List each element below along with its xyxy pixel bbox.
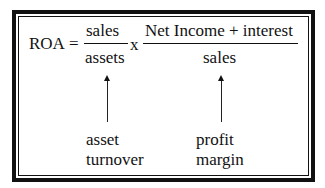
arrow-up-icon — [107, 80, 108, 122]
fraction1-bar — [84, 43, 128, 44]
fraction2-numerator: Net Income + interest — [145, 22, 293, 39]
fraction2-denominator: sales — [203, 49, 236, 66]
fraction1-numerator: sales — [86, 22, 119, 39]
annotation-asset-turnover-line2: turnover — [86, 151, 144, 168]
equals-sign: = — [69, 35, 79, 52]
annotation-asset-turnover-line1: asset — [86, 131, 119, 148]
annotation-profit-margin-line2: margin — [196, 151, 244, 168]
formula-lhs: ROA — [29, 35, 65, 52]
multiply-sign: x — [130, 36, 139, 53]
arrow-up-icon — [221, 80, 222, 122]
annotation-profit-margin-line1: profit — [196, 131, 234, 148]
fraction1-denominator: assets — [85, 49, 125, 66]
fraction2-bar — [143, 43, 298, 44]
